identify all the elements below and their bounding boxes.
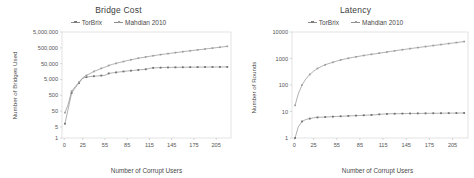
- svg-text:55: 55: [102, 142, 108, 148]
- chart-panel-latency: Latency TorBrix Mahdian 2010 Number of R…: [237, 0, 474, 178]
- svg-text:115: 115: [379, 142, 388, 148]
- svg-text:145: 145: [167, 142, 176, 148]
- svg-text:500: 500: [49, 92, 58, 98]
- svg-text:175: 175: [425, 142, 434, 148]
- svg-text:5: 5: [55, 124, 58, 130]
- svg-text:50,000: 50,000: [41, 61, 58, 67]
- svg-text:85: 85: [124, 142, 130, 148]
- svg-text:25: 25: [80, 142, 86, 148]
- svg-text:100: 100: [279, 82, 288, 88]
- svg-text:500,000: 500,000: [38, 45, 58, 51]
- figure-container: Bridge Cost TorBrix Mahdian 2010 Number …: [0, 0, 474, 178]
- svg-text:205: 205: [448, 142, 457, 148]
- svg-text:5,000: 5,000: [44, 76, 58, 82]
- svg-text:115: 115: [145, 142, 154, 148]
- svg-text:175: 175: [189, 142, 198, 148]
- plot-area-bridge-cost: 15505005,00050,000500,0005,000,000025558…: [0, 0, 237, 178]
- chart-panel-bridge-cost: Bridge Cost TorBrix Mahdian 2010 Number …: [0, 0, 237, 178]
- svg-text:55: 55: [334, 142, 340, 148]
- svg-text:145: 145: [402, 142, 411, 148]
- plot-area-latency: 1101001000100000255585115145175205: [237, 0, 474, 178]
- svg-text:1000: 1000: [276, 56, 288, 62]
- svg-text:10: 10: [282, 109, 288, 115]
- svg-text:5,000,000: 5,000,000: [33, 29, 58, 35]
- svg-text:10000: 10000: [272, 29, 288, 35]
- svg-text:1: 1: [285, 135, 288, 141]
- svg-text:0: 0: [63, 142, 66, 148]
- svg-text:205: 205: [212, 142, 221, 148]
- svg-text:25: 25: [310, 142, 316, 148]
- svg-text:50: 50: [52, 108, 58, 114]
- svg-text:1: 1: [55, 135, 58, 141]
- svg-text:0: 0: [293, 142, 296, 148]
- svg-text:85: 85: [357, 142, 363, 148]
